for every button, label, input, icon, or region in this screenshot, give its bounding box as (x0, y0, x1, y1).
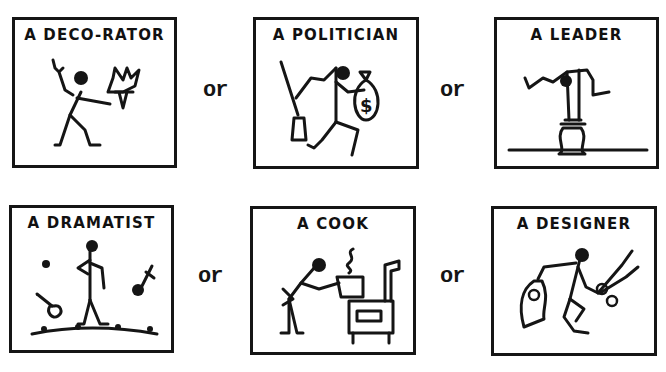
dramatist-figure-icon (12, 208, 171, 350)
panel-politician: A POLITICIAN $ (253, 17, 419, 169)
designer-figure-icon (494, 209, 654, 353)
connector-or: or (203, 78, 227, 103)
cook-figure-icon (253, 209, 413, 352)
panel-dramatist: A DRAMATIST (9, 205, 174, 353)
panel-cook: A COOK (250, 206, 416, 355)
svg-text:$: $ (360, 95, 373, 116)
connector-or: or (440, 78, 464, 103)
panel-designer: A DESIGNER (491, 206, 657, 356)
leader-figure-icon (497, 20, 656, 166)
panel-decorator: A DECO-RATOR (12, 17, 177, 168)
connector-or: or (440, 264, 464, 289)
politician-figure-icon: $ (256, 20, 416, 166)
panel-leader: A LEADER (494, 17, 659, 169)
decorator-figure-icon (15, 20, 174, 165)
connector-or: or (198, 264, 222, 289)
